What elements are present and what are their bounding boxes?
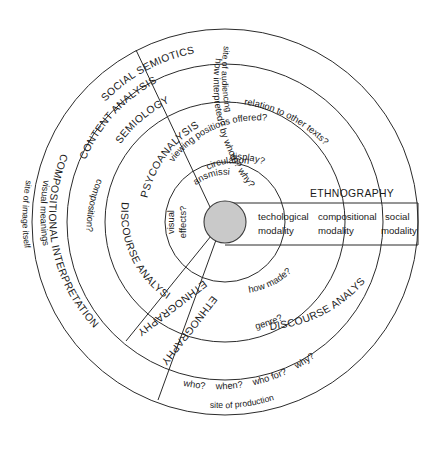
- rose-visual-methodologies-diagram: techological modality compositional moda…: [0, 0, 448, 455]
- question-label-composition: composition?: [85, 178, 105, 232]
- question-textpath-composition: composition?: [85, 178, 105, 232]
- question-group-visual-effects: visual effects?: [166, 206, 188, 238]
- radial-divider-lower-left-2: [158, 240, 216, 400]
- method-label-compositional-interpretation: COMPOSITIONAL INTERPRETATION: [47, 153, 101, 330]
- question-tspan-when: when?: [215, 379, 244, 391]
- method-textpath-compositional-interpretation: COMPOSITIONAL INTERPRETATION: [47, 153, 101, 330]
- modality-social-line1: social: [385, 211, 410, 222]
- modality-compositional-line2: modality: [318, 225, 354, 236]
- modality-social-line2: modality: [381, 225, 417, 236]
- centre-disc: [204, 201, 246, 243]
- concentric-circle-diagram: techological modality compositional moda…: [0, 0, 448, 455]
- site-textpath-production: site of production: [210, 392, 276, 410]
- question-tspan-who-for: who for?: [251, 366, 288, 387]
- question-label-who-when-whofor-why: who? when? who for? why?: [182, 351, 316, 392]
- question-tspan-who: who?: [182, 378, 206, 391]
- question-label-how-made: how made?: [248, 266, 293, 295]
- question-textpath-how-made: how made?: [248, 266, 293, 295]
- modality-technological-line2: modality: [258, 225, 294, 236]
- site-label-production: site of production: [210, 392, 276, 410]
- modality-compositional-line1: compositional: [318, 211, 377, 222]
- question-textpath-who: who? when? who for? why?: [182, 351, 316, 392]
- method-label-ethnography-band: ETHNOGRAPHY: [310, 188, 394, 199]
- question-tspan-why: why?: [292, 351, 316, 371]
- question-label-visual-effects-line1: visual: [166, 210, 176, 234]
- question-label-visual-effects-line2: effects?: [178, 206, 188, 238]
- modality-band: [225, 203, 418, 245]
- modality-technological-line1: techological: [258, 211, 309, 222]
- modality-labels: techological modality compositional moda…: [258, 211, 417, 236]
